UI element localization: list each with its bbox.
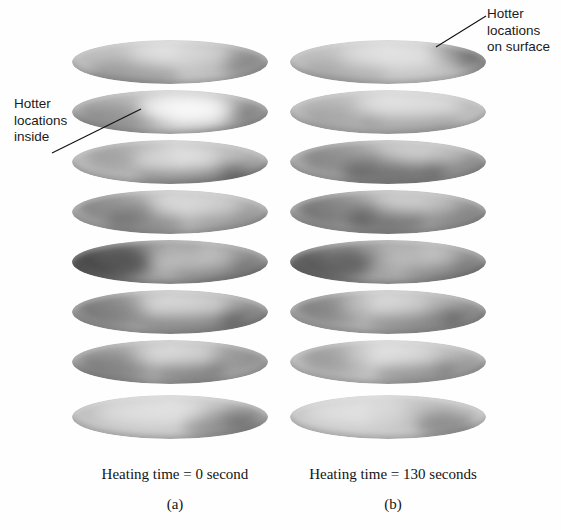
panel-label-b: (b) (278, 496, 508, 513)
annotation-hotter-locations-inside: Hotter locations inside (14, 96, 67, 146)
caption-panel-b: Heating time = 130 seconds (278, 466, 508, 483)
leader-line-surface (0, 0, 561, 530)
panel-label-a: (a) (60, 496, 290, 513)
page-footer-fragment (8, 525, 553, 528)
caption-panel-a: Heating time = 0 second (60, 466, 290, 483)
figure-canvas: Hotter locations inside Hotter locations… (0, 0, 561, 530)
annotation-hotter-locations-on-surface: Hotter locations on surface (487, 6, 550, 56)
